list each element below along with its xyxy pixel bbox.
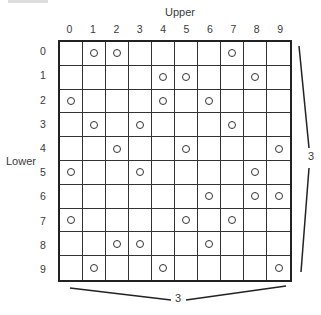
right-bracket-upper-line	[299, 46, 309, 148]
right-bracket-label: 3	[306, 150, 316, 162]
bracket-lines	[0, 0, 321, 315]
bottom-bracket-left-line	[70, 288, 171, 300]
bottom-bracket-right-line	[186, 286, 286, 300]
right-bracket-lower-line	[301, 168, 309, 272]
bottom-bracket-label: 3	[173, 292, 183, 304]
